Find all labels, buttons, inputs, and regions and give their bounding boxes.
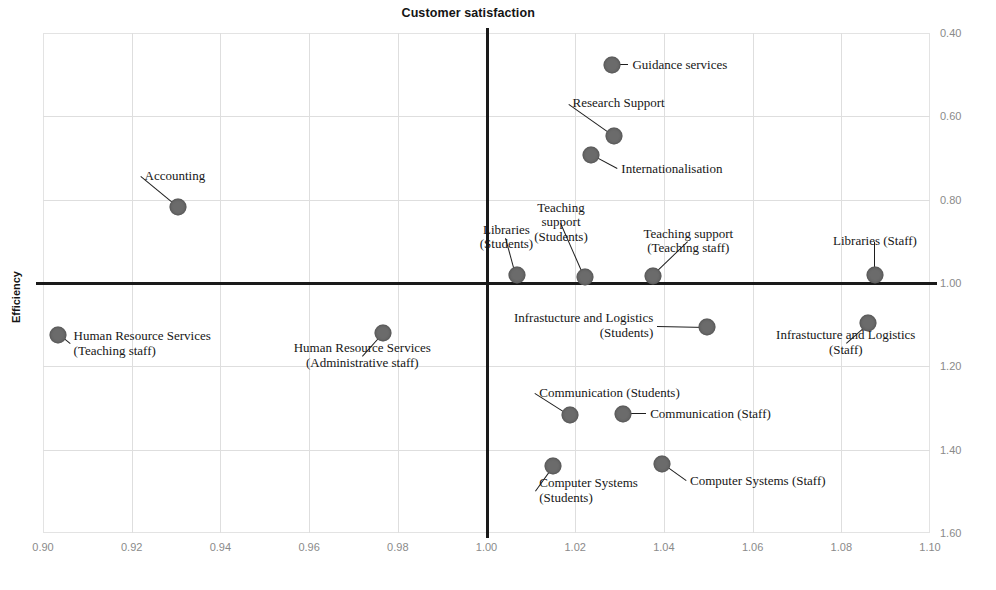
- y-axis-tick-label: 0.60: [940, 110, 961, 122]
- data-point-label: Human Resource Services (Administrative …: [294, 341, 431, 370]
- data-point-marker[interactable]: [545, 458, 562, 475]
- y-axis-tick-label: 1.20: [940, 360, 961, 372]
- x-axis-tick-label: 0.98: [387, 541, 408, 553]
- data-point-label: Teaching support (Teaching staff): [643, 227, 733, 256]
- x-axis-tick-label: 1.10: [919, 541, 940, 553]
- scatter-chart: Customer satisfaction Efficiency 0.900.9…: [0, 0, 996, 590]
- data-point-marker[interactable]: [615, 406, 632, 423]
- x-axis-tick-label: 1.06: [742, 541, 763, 553]
- data-point-marker[interactable]: [561, 407, 578, 424]
- data-point-label: Internationalisation: [621, 162, 722, 177]
- y-axis-tick-label: 0.40: [940, 27, 961, 39]
- data-point-label: Infrastucture and Logistics (Students): [514, 311, 653, 340]
- data-point-label: Human Resource Services (Teaching staff): [74, 329, 211, 358]
- data-point-marker[interactable]: [583, 147, 600, 164]
- x-axis-tick-label: 1.04: [653, 541, 674, 553]
- data-point-label: Libraries (Students): [480, 223, 533, 252]
- data-point-marker[interactable]: [867, 267, 884, 284]
- x-axis-tick-label: 1.00: [476, 541, 497, 553]
- data-point-label: Guidance services: [632, 58, 727, 73]
- data-point-label: Communication (Students): [539, 386, 679, 401]
- x-axis-tick-label: 1.02: [564, 541, 585, 553]
- data-point-marker[interactable]: [169, 199, 186, 216]
- reference-line-horizontal: [36, 282, 937, 285]
- x-axis-tick-label: 0.94: [210, 541, 231, 553]
- data-point-marker[interactable]: [606, 128, 623, 145]
- data-point-marker[interactable]: [653, 456, 670, 473]
- data-point-label: Communication (Staff): [650, 407, 771, 422]
- data-point-label: Research Support: [573, 96, 665, 111]
- data-point-marker[interactable]: [576, 269, 593, 286]
- data-point-marker[interactable]: [698, 319, 715, 336]
- y-axis-tick-label: 1.60: [940, 527, 961, 539]
- data-point-marker[interactable]: [375, 325, 392, 342]
- y-axis-tick-label: 0.80: [940, 194, 961, 206]
- data-point-label: Computer Systems (Students): [539, 476, 638, 505]
- data-point-marker[interactable]: [644, 268, 661, 285]
- data-point-label: Accounting: [145, 169, 206, 184]
- data-point-marker[interactable]: [50, 327, 67, 344]
- x-axis-tick-label: 0.92: [121, 541, 142, 553]
- data-point-marker[interactable]: [508, 267, 525, 284]
- data-point-label: Infrastucture and Logistics (Staff): [776, 328, 915, 357]
- data-point-label: Computer Systems (Staff): [690, 474, 826, 489]
- y-axis-tick-label: 1.40: [940, 444, 961, 456]
- x-axis-tick-label: 0.96: [298, 541, 319, 553]
- y-axis-tick-label: 1.00: [940, 277, 961, 289]
- data-point-label: Teaching support (Students): [534, 201, 587, 245]
- chart-title: Customer satisfaction: [402, 6, 535, 20]
- x-axis-tick-label: 1.08: [831, 541, 852, 553]
- data-point-marker[interactable]: [604, 57, 621, 74]
- data-point-label: Libraries (Staff): [833, 234, 917, 249]
- x-axis-tick-label: 0.90: [32, 541, 53, 553]
- y-axis-title: Efficiency: [10, 271, 22, 323]
